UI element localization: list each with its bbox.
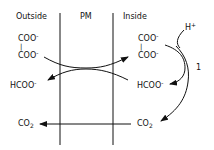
oxalate-to-formate-arrow (165, 45, 185, 84)
header-outside: Outside (16, 12, 47, 21)
inside-oxalate-top: COO- (138, 34, 158, 43)
outside-oxalate-top: COO- (18, 34, 38, 43)
outside-formate: HCOO- (10, 81, 36, 90)
oxalate-to-co2-arrow (161, 46, 189, 121)
reaction-1-label: 1 (196, 63, 201, 72)
header-membrane: PM (80, 12, 92, 21)
header-inside: Inside (123, 12, 147, 21)
inside-co2: CO2 (137, 119, 153, 128)
oxalate-transport-diagram: Outside PM Inside COO- | COO- HCOO- CO2 … (0, 0, 214, 150)
outside-co2: CO2 (18, 119, 34, 128)
inside-oxalate-bottom: COO- (138, 51, 158, 60)
proton-input-curve (177, 30, 184, 48)
outside-oxalate-bottom: COO- (18, 51, 38, 60)
inside-formate: HCOO- (137, 81, 163, 90)
oxalate-import-arrow (44, 57, 128, 68)
proton-label: H+ (185, 23, 196, 32)
